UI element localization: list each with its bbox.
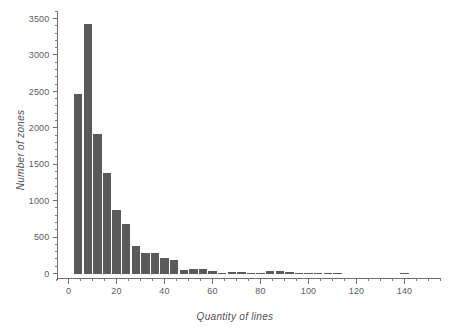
bar: [285, 272, 293, 274]
y-axis-title: Number of zones: [15, 110, 26, 191]
bar: [295, 273, 303, 274]
y-tick-label: 1000: [29, 196, 50, 206]
x-tick-label: 20: [111, 286, 121, 296]
bar: [314, 273, 322, 274]
bar: [151, 253, 159, 274]
bar: [400, 273, 408, 274]
x-tick-label: 120: [349, 286, 365, 296]
bar: [324, 273, 332, 274]
bar: [276, 271, 284, 273]
x-tick-label: 40: [159, 286, 169, 296]
x-tick-label: 0: [66, 286, 71, 296]
bar: [180, 270, 188, 273]
bar: [247, 273, 255, 274]
bar: [228, 272, 236, 273]
bar: [122, 224, 130, 273]
bar: [199, 269, 207, 274]
bar: [189, 269, 197, 274]
bar: [160, 258, 168, 273]
y-tick-label: 3000: [29, 50, 50, 60]
histogram-chart: 0500100015002000250030003500020406080100…: [0, 0, 458, 334]
x-tick-label: 100: [301, 286, 317, 296]
y-tick-label: 500: [34, 232, 50, 242]
bar: [103, 173, 111, 274]
chart-svg: 0500100015002000250030003500020406080100…: [0, 0, 458, 334]
bar: [208, 271, 216, 273]
x-tick-label: 80: [255, 286, 265, 296]
y-tick-label: 3500: [29, 14, 50, 24]
x-tick-label: 60: [207, 286, 217, 296]
y-tick-label: 1500: [29, 159, 50, 169]
bar: [84, 24, 92, 274]
bars-group: [74, 24, 409, 274]
y-tick-label: 2000: [29, 123, 50, 133]
bar: [256, 273, 264, 274]
bar: [237, 272, 245, 273]
bar: [170, 260, 178, 273]
bar: [141, 253, 149, 273]
bar: [333, 273, 341, 274]
y-tick-label: 0: [44, 269, 49, 279]
bar: [266, 271, 274, 273]
bar: [218, 273, 226, 274]
bar: [112, 210, 120, 273]
bar: [304, 273, 312, 274]
y-tick-label: 2500: [29, 87, 50, 97]
bar: [93, 134, 101, 274]
x-axis-title: Quantity of lines: [197, 311, 274, 322]
x-tick-label: 140: [397, 286, 413, 296]
bar: [74, 94, 82, 273]
bar: [132, 246, 140, 274]
